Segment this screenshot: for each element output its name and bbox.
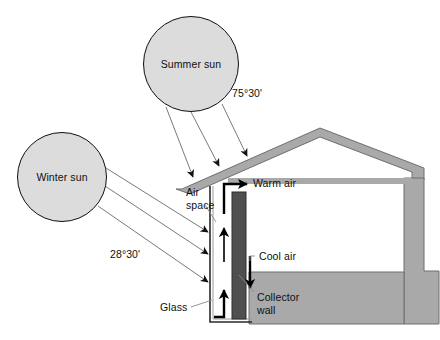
glass-label: Glass xyxy=(160,301,187,314)
roof-shape xyxy=(176,128,424,194)
collector-wall-mass xyxy=(232,192,246,319)
warm-air-label: Warm air xyxy=(253,177,296,190)
winter-angle-label: 28°30' xyxy=(110,248,140,261)
winter-sun-label: Winter sun xyxy=(36,171,87,184)
diagram-canvas: Summer sun Winter sun 75°30' 28°30' Air … xyxy=(0,0,440,340)
winter-sun: Winter sun xyxy=(17,132,107,222)
summer-sun: Summer sun xyxy=(143,16,239,112)
air-space-label: Air space xyxy=(186,186,215,211)
cool-air-label: Cool air xyxy=(259,250,296,263)
right-wall xyxy=(404,178,439,324)
collector-wall-label-line1: Collector xyxy=(257,291,299,304)
return-air-arrow xyxy=(214,290,224,317)
air-space-label-line1: Air xyxy=(186,186,215,199)
house-structure xyxy=(176,128,439,324)
summer-sun-label: Summer sun xyxy=(161,58,222,71)
collector-wall-label-line2: wall xyxy=(257,304,299,317)
collector-wall-label: Collector wall xyxy=(257,291,299,316)
air-space-label-line2: space xyxy=(186,199,215,212)
leader-glass xyxy=(191,300,212,307)
summer-angle-label: 75°30' xyxy=(232,87,262,100)
